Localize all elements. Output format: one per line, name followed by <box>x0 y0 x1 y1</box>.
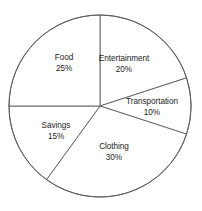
pie-label-value: 10% <box>126 107 178 118</box>
pie-label-name: Savings <box>42 121 71 132</box>
pie-label-value: 15% <box>42 131 71 142</box>
pie-label-entertainment: Entertainment20% <box>99 54 149 75</box>
pie-label-value: 25% <box>55 63 73 74</box>
pie-label-value: 20% <box>99 64 149 75</box>
pie-label-name: Clothing <box>99 142 129 153</box>
pie-label-clothing: Clothing30% <box>99 142 129 163</box>
pie-label-food: Food25% <box>55 53 73 74</box>
pie-label-name: Transportation <box>126 97 178 108</box>
pie-label-name: Entertainment <box>99 54 149 65</box>
pie-label-transportation: Transportation10% <box>126 97 178 118</box>
pie-label-name: Food <box>55 53 73 64</box>
pie-label-savings: Savings15% <box>42 121 71 142</box>
pie-label-value: 30% <box>99 152 129 163</box>
pie-chart: Entertainment20%Transportation10%Clothin… <box>0 0 202 211</box>
